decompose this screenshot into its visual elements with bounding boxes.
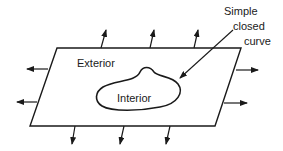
outward-arrows-right: [224, 70, 258, 103]
exterior-label: Exterior: [77, 57, 115, 69]
curve-label-line3: curve: [244, 35, 271, 47]
diagram-canvas: Exterior Interior Simple closed curve: [0, 0, 283, 151]
interior-label: Interior: [117, 92, 151, 104]
curve-label-line2: closed: [233, 20, 265, 32]
outward-arrows-top: [101, 30, 198, 48]
outward-arrows-bottom: [72, 126, 170, 144]
curve-pointer-arrow: [180, 30, 233, 78]
curve-label-line1: Simple: [224, 5, 258, 17]
plane-parallelogram: [30, 48, 241, 126]
